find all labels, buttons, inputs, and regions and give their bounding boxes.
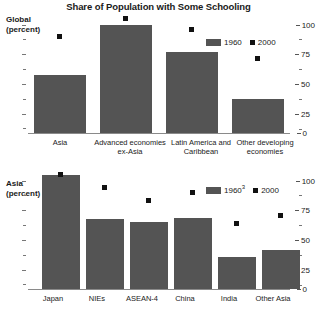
marker-2000-japan — [58, 172, 63, 177]
ytick-left-75 — [22, 54, 26, 55]
xaxis-global — [28, 133, 290, 134]
bar-1960-latin-america — [166, 52, 218, 133]
xlabel-asia: Asia — [34, 138, 86, 147]
bar-1960-other-asia — [262, 250, 300, 289]
ytick-minor-375 — [299, 95, 304, 104]
xaxis-asia — [28, 289, 290, 290]
ytick-asia-minor-875 — [299, 191, 304, 200]
xlabel-other-asia: Other Asia — [246, 294, 300, 303]
xlabel-china: China — [162, 294, 208, 303]
ytick-asia-75: 75 — [295, 206, 310, 215]
bar-1960-advanced-economies — [100, 25, 152, 133]
bar-1960-india — [218, 257, 256, 289]
ytick-75: 75 — [295, 50, 310, 59]
xlabel-nies: NIEs — [74, 294, 120, 303]
plot-area-asia — [28, 170, 288, 289]
marker-2000-asia — [57, 34, 62, 39]
marker-2000-nies — [102, 185, 107, 190]
bar-1960-china — [174, 218, 212, 289]
ytick-left-asia-100 — [22, 181, 26, 182]
ytick-left-asia-25 — [22, 270, 26, 271]
ytick-asia-minor-625 — [299, 221, 304, 230]
marker-2000-india — [234, 221, 239, 226]
bar-1960-asean4 — [130, 222, 168, 289]
ytick-left-100 — [22, 25, 26, 26]
ytick-minor-625 — [299, 65, 304, 74]
ytick-left-625 — [23, 69, 26, 70]
marker-2000-other-asia — [278, 213, 283, 218]
bar-1960-japan — [42, 175, 80, 289]
ytick-left-asia-50 — [22, 240, 26, 241]
marker-2000-latin-america — [189, 27, 194, 32]
ytick-left-asia-125 — [23, 284, 26, 285]
ytick-left-875 — [23, 39, 26, 40]
marker-2000-china — [190, 190, 195, 195]
ytick-left-asia-75 — [22, 210, 26, 211]
ytick-left-25 — [22, 114, 26, 115]
marker-2000-asean4 — [146, 198, 151, 203]
xlabel-japan: Japan — [30, 294, 76, 303]
ytick-asia-100: 100 — [296, 177, 315, 186]
ytick-50: 50 — [295, 80, 310, 89]
ytick-left-125 — [23, 128, 26, 129]
bar-1960-asia — [34, 75, 86, 133]
ytick-left-375 — [23, 99, 26, 100]
ytick-25: 25 — [295, 110, 310, 119]
ytick-minor-875 — [299, 35, 304, 44]
xlabel-other-developing: Other developing economies — [234, 138, 296, 156]
panel-global: Global (percent) 19602000 100 75 50 25 0 — [0, 14, 317, 164]
xlabel-latin-america: Latin America and Caribbean — [170, 138, 232, 156]
ytick-100: 100 — [296, 21, 315, 30]
marker-2000-other-developing — [255, 56, 260, 61]
ytick-left-50 — [22, 84, 26, 85]
xlabel-advanced-economies: Advanced economies ex-Asia — [92, 138, 168, 156]
ytick-left-asia-875 — [23, 195, 26, 196]
bar-1960-other-developing — [232, 99, 284, 134]
chart-title: Share of Population with Some Schooling — [0, 1, 317, 12]
bar-1960-nies — [86, 219, 124, 289]
ytick-0: 0 — [297, 129, 307, 138]
plot-area-global — [28, 14, 288, 133]
xlabel-asean4: ASEAN-4 — [116, 294, 168, 303]
ytick-asia-50: 50 — [295, 236, 310, 245]
ytick-left-asia-625 — [23, 225, 26, 226]
marker-2000-advanced-economies — [123, 16, 128, 21]
chart-figure: Share of Population with Some Schooling … — [0, 0, 317, 328]
panel-asia-label-line1: Asia — [6, 179, 23, 188]
ytick-left-asia-375 — [23, 255, 26, 256]
panel-asia: Asia (percent) 196032000 100 75 50 25 0 — [0, 178, 317, 328]
